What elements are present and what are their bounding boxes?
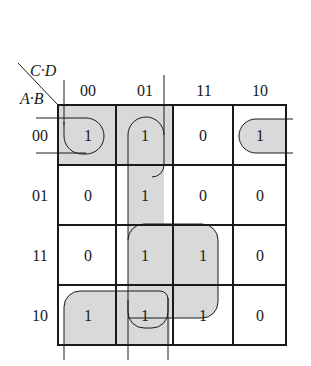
col-header-00: 00	[80, 82, 96, 99]
row-header-00: 00	[32, 127, 48, 144]
col-header-01: 01	[137, 82, 153, 99]
cell-01-00: 0	[84, 187, 92, 204]
row-header-10: 10	[32, 307, 48, 324]
cell-11-11: 1	[199, 247, 207, 264]
col-header-11: 11	[196, 82, 211, 99]
cell-00-01: 1	[141, 127, 149, 144]
row-header-11: 11	[32, 247, 47, 264]
cell-00-11: 0	[199, 127, 207, 144]
cell-10-10: 0	[256, 307, 264, 324]
column-variables-label: C·D	[30, 62, 57, 79]
karnaugh-map: C·D A·B 00 01 11 10 00 01 11 10	[0, 0, 311, 366]
cell-10-00: 1	[84, 307, 92, 324]
cell-01-11: 0	[199, 187, 207, 204]
cell-01-10: 0	[256, 187, 264, 204]
cell-11-00: 0	[84, 247, 92, 264]
col-header-10: 10	[252, 82, 268, 99]
row-header-01: 01	[32, 187, 48, 204]
row-variables-label: A·B	[19, 90, 44, 107]
cell-00-10: 1	[256, 127, 264, 144]
cell-10-01: 1	[141, 307, 149, 324]
cell-11-01: 1	[141, 247, 149, 264]
cell-00-00: 1	[84, 127, 92, 144]
cell-11-10: 0	[256, 247, 264, 264]
cell-01-01: 1	[141, 187, 149, 204]
cell-10-11: 1	[199, 307, 207, 324]
